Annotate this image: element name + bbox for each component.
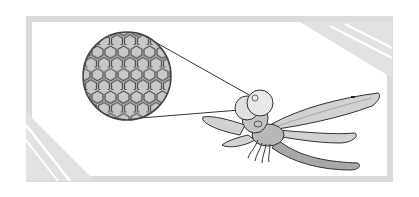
compound-eye-magnified-icon: [80, 30, 175, 125]
dragonfly-eye-diagram: [0, 0, 419, 197]
corner-stripes-top-right: [300, 22, 392, 78]
corner-stripes-bottom-left: [26, 112, 95, 181]
dragonfly-icon: [203, 90, 380, 170]
